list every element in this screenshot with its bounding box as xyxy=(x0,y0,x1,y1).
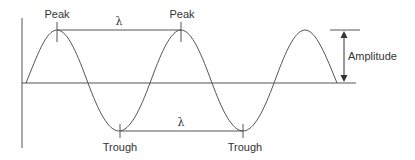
peak-2-label: Peak xyxy=(169,8,195,20)
amplitude-arrow-down-icon xyxy=(341,75,348,82)
trough-2-label: Trough xyxy=(228,141,262,153)
amplitude-label: Amplitude xyxy=(348,50,397,62)
amplitude-arrow-up-icon xyxy=(341,31,348,38)
wave-diagram: Peak Peak λ λ Trough Trough Amplitude xyxy=(0,0,415,160)
peak-1-label: Peak xyxy=(44,8,70,20)
trough-1-label: Trough xyxy=(103,141,137,153)
wavelength-bottom-label: λ xyxy=(178,116,185,129)
wavelength-top-label: λ xyxy=(116,15,123,28)
